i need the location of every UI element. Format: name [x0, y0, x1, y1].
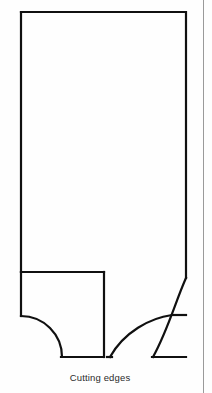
cutting-edges-line-drawing [0, 0, 212, 370]
left-cutting-edge-fillet-arc [21, 316, 62, 357]
body-top-and-right-edge-path [21, 12, 186, 278]
figure-caption: Cutting edges [0, 372, 200, 383]
drawing-strokes [21, 12, 186, 357]
column-divider-rule [203, 0, 204, 393]
figure-panel: Cutting edges [0, 0, 212, 393]
